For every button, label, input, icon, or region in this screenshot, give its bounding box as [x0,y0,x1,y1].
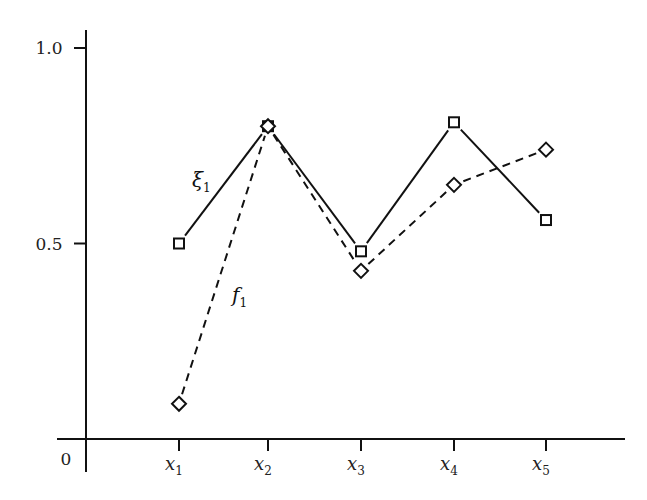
f1-line-segment [368,192,446,264]
series-label-f1: f1 [230,283,247,310]
diamond-marker [354,264,368,278]
x-ticks: x1x2x3x4x5 [165,439,550,478]
square-marker [449,117,459,127]
diamond-marker [447,178,461,192]
x-tick-label: x5 [532,453,550,478]
x-tick-label: x4 [440,453,458,478]
x-tick-label: x1 [165,453,183,478]
square-marker [541,215,551,225]
f1-line-segment [463,153,536,181]
diamond-marker [172,397,186,411]
xi1-line-segment [367,130,448,243]
origin-label: 0 [61,449,72,469]
series-layer [172,117,553,411]
f1-line-segment [273,135,355,263]
x-tick-label: x3 [347,453,365,478]
square-marker [174,239,184,249]
x-tick-label: x2 [254,453,272,478]
y-ticks: 0.51.0 [35,38,86,254]
series-label-xi1: ξ1 [192,168,211,195]
chart-canvas: 0.51.0 x1x2x3x4x5 0 ξ1 f1 [0,0,647,500]
y-tick-label: 1.0 [35,38,62,58]
xi1-line-segment [274,134,355,243]
xi1-line-segment [461,130,539,213]
y-tick-label: 0.5 [35,234,62,254]
diamond-marker [539,143,553,157]
square-marker [356,246,366,256]
